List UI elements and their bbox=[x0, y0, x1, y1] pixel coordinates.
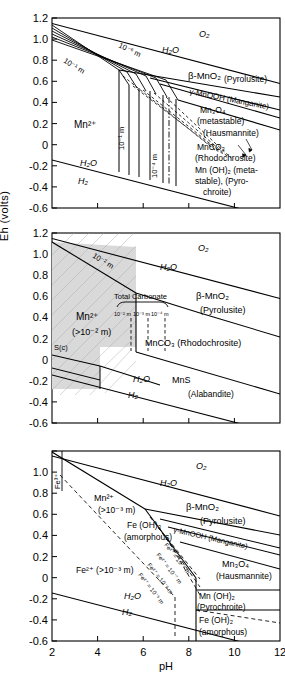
label-feoh2: Fe (OH)₂ bbox=[199, 615, 233, 625]
label-mnoh2-c: chroite) bbox=[203, 187, 232, 197]
label-alabandite: (Alabandite) bbox=[188, 389, 234, 399]
y-tick-label: -0.4 bbox=[29, 181, 48, 193]
label-h2o-lower: H₂O bbox=[133, 374, 150, 384]
y-tick-label: 1.2 bbox=[33, 227, 48, 239]
label-mn2plus: Mn²⁺ bbox=[74, 119, 96, 130]
y-tick-label: 0.4 bbox=[33, 311, 48, 323]
label-vline-1e4: 10⁻⁴ m bbox=[150, 154, 159, 178]
label-mn2plus-conc: (>10⁻³ m) bbox=[98, 505, 136, 515]
eh-ph-figure: Eh (volts) 1.2 1.0 0.8 0.6 0.4 0 bbox=[0, 0, 285, 673]
label-metastable: (metastable) bbox=[197, 116, 244, 126]
label-h2o-upper: H₂O bbox=[160, 478, 177, 488]
label-hausmannite: (Hausmannite) bbox=[216, 571, 272, 581]
panel-c-plot: 1.0 0.8 0.6 0.4 0.2 0 -0.2 -0.4 -0.6 2 4… bbox=[0, 447, 285, 673]
label-mn2plus-conc: (>10⁻² m) bbox=[72, 327, 111, 337]
label-hausmannite: (Hausmannite) bbox=[203, 128, 259, 138]
panel-a: 1.2 1.0 0.8 0.6 0.4 0.2 0 -0.2 -0.4 -0.6 bbox=[0, 0, 285, 225]
label-o2: O₂ bbox=[196, 461, 207, 471]
x-tick-label: 6 bbox=[140, 646, 146, 658]
label-feoh3: Fe (OH)₃ bbox=[127, 520, 161, 530]
label-h2o-lower: H₂O bbox=[124, 591, 141, 601]
y-tick-label: 0.4 bbox=[33, 96, 48, 108]
label-carb-1e3: 10⁻³ m bbox=[133, 311, 150, 317]
y-tick-label: 0.4 bbox=[33, 529, 48, 541]
label-amorphous-1: (amorphous) bbox=[124, 532, 172, 542]
label-fe3plus: Fe³⁺ bbox=[53, 474, 62, 489]
y-tick-label: 1.0 bbox=[33, 248, 48, 260]
y-tick-label: -0.2 bbox=[29, 593, 48, 605]
y-tick-label: 0.2 bbox=[33, 551, 48, 563]
label-carb-1e2: 10⁻² m bbox=[114, 311, 131, 317]
label-mn3o4: Mn₃O₄ bbox=[222, 559, 249, 569]
label-mnco3: MnCO₃ bbox=[197, 142, 225, 152]
x-axis-title: pH bbox=[159, 660, 173, 672]
panel-c: 1.0 0.8 0.6 0.4 0.2 0 -0.2 -0.4 -0.6 2 4… bbox=[0, 447, 285, 673]
label-h2: H₂ bbox=[122, 607, 132, 617]
label-pyrolusite: (Pyrolusite) bbox=[200, 305, 246, 315]
panel-b-plot: 1.2 1.0 0.8 0.6 0.4 0.2 0 -0.2 -0.4 -0.6 bbox=[0, 225, 285, 447]
label-amorphous-2: (amorphous) bbox=[199, 627, 247, 637]
y-tick-label: 1.2 bbox=[33, 12, 48, 24]
y-tick-label: 1.0 bbox=[33, 466, 48, 478]
label-total-carbonate: Total Carbonate bbox=[114, 292, 167, 301]
x-tick-label: 8 bbox=[186, 646, 192, 658]
y-tick-label: 0 bbox=[42, 572, 48, 584]
label-mn3o4: Mn₃O₄ bbox=[200, 105, 226, 115]
y-tick-labels: 1.2 1.0 0.8 0.6 0.4 0.2 0 -0.2 -0.4 -0.6 bbox=[29, 12, 48, 214]
label-rhodochrosite: (Rhodochrosite) bbox=[195, 153, 256, 163]
label-h2o-upper: H₂O bbox=[160, 262, 177, 272]
label-mn2plus: Mn²⁺ bbox=[94, 493, 115, 503]
label-h2o-upper: H₂O bbox=[162, 45, 179, 55]
y-tick-label: -0.4 bbox=[29, 396, 48, 408]
label-mn2plus: Mn²⁺ bbox=[76, 311, 98, 322]
label-h2: H₂ bbox=[128, 390, 138, 400]
label-beta-mno2: β-MnO₂ bbox=[196, 290, 229, 301]
x-tick-label: 2 bbox=[49, 646, 55, 658]
label-mnoh2-a: Mn (OH)₂ (meta- bbox=[195, 165, 258, 175]
y-tick-label: 0.6 bbox=[33, 508, 48, 520]
label-h2o-lower: H₂O bbox=[80, 158, 97, 168]
label-pyrolusite: (Pyrolusite) bbox=[200, 516, 246, 526]
y-tick-label: -0.2 bbox=[29, 160, 48, 172]
y-tick-labels: 1.2 1.0 0.8 0.6 0.4 0.2 0 -0.2 -0.4 -0.6 bbox=[29, 227, 48, 429]
label-mnco3: MnCO₃ (Rhodochrosite) bbox=[145, 338, 241, 348]
label-beta-mno2: β-MnO₂ bbox=[186, 501, 219, 512]
x-tick-labels: 2 4 6 8 10 12 bbox=[49, 646, 285, 658]
y-tick-label: -0.2 bbox=[29, 375, 48, 387]
y-tick-label: 0.2 bbox=[33, 118, 48, 130]
y-tick-label: 0.2 bbox=[33, 333, 48, 345]
label-h2: H₂ bbox=[78, 176, 88, 186]
x-tick-label: 12 bbox=[274, 646, 285, 658]
y-tick-labels: 1.0 0.8 0.6 0.4 0.2 0 -0.2 -0.4 -0.6 bbox=[29, 466, 48, 647]
y-tick-label: 0.8 bbox=[33, 54, 48, 66]
x-tick-label: 4 bbox=[95, 646, 101, 658]
y-tick-label: 0 bbox=[42, 354, 48, 366]
y-tick-label: -0.6 bbox=[29, 635, 48, 647]
y-tick-label: 0 bbox=[42, 139, 48, 151]
label-mnoh2-b: stable), (Pyro- bbox=[195, 176, 249, 186]
label-mnoh2: Mn (OH)₂ bbox=[199, 591, 235, 601]
panel-b: 1.2 1.0 0.8 0.6 0.4 0.2 0 -0.2 -0.4 -0.6 bbox=[0, 225, 285, 447]
x-tick-label: 10 bbox=[228, 646, 240, 658]
label-carb-1e4: 10⁻⁴ m bbox=[151, 311, 169, 317]
label-fe2plus: Fe²⁺ (>10⁻³ m) bbox=[76, 565, 134, 575]
label-pyrochroite: (Pyrochroite) bbox=[197, 602, 246, 612]
y-tick-label: -0.4 bbox=[29, 614, 48, 626]
y-tick-label: 0.8 bbox=[33, 269, 48, 281]
label-pyrolusite: (Pyrolusite) bbox=[224, 74, 267, 84]
y-tick-label: -0.6 bbox=[29, 202, 48, 214]
label-o2: O₂ bbox=[198, 243, 209, 253]
y-tick-label: 0.6 bbox=[33, 290, 48, 302]
y-tick-label: 1.0 bbox=[33, 33, 48, 45]
y-tick-label: -0.6 bbox=[29, 417, 48, 429]
label-o2: O₂ bbox=[199, 29, 210, 39]
label-vline-1e1: 10⁻¹ m bbox=[117, 127, 126, 150]
label-sc: S(c) bbox=[54, 343, 68, 352]
label-beta-mno2: β-MnO₂ bbox=[188, 70, 221, 81]
y-tick-label: 0.6 bbox=[33, 75, 48, 87]
y-tick-label: 0.8 bbox=[33, 487, 48, 499]
label-mns: MnS bbox=[172, 375, 191, 385]
panel-a-plot: 1.2 1.0 0.8 0.6 0.4 0.2 0 -0.2 -0.4 -0.6 bbox=[0, 0, 285, 225]
